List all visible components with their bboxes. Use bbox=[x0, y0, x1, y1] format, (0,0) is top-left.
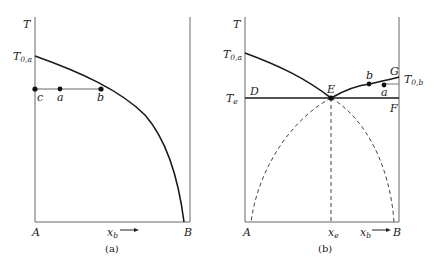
panel-a-t0a-label: T0,a bbox=[13, 50, 32, 64]
panel-a: T T0,a c a b A B xb (a) bbox=[13, 17, 192, 254]
panel-a-liquidus-curve bbox=[35, 56, 184, 222]
panel-a-label-b: b bbox=[97, 91, 104, 104]
panel-b-xb-label: xb bbox=[360, 226, 371, 240]
panel-b-liquidus-right bbox=[331, 77, 399, 98]
panel-a-xb-label: xb bbox=[107, 226, 118, 240]
panel-b-point-E bbox=[328, 95, 333, 100]
panel-b-label-G: G bbox=[390, 65, 399, 78]
panel-b-point-b bbox=[367, 82, 372, 87]
panel-a-label-B: B bbox=[183, 226, 192, 239]
panel-b-caption: (b) bbox=[318, 243, 332, 254]
panel-b-label-E: E bbox=[326, 83, 335, 96]
panel-b-label-b: b bbox=[366, 69, 373, 82]
panel-b-dashed-left bbox=[251, 98, 331, 222]
panel-a-y-axis-label: T bbox=[23, 18, 32, 31]
panel-b-label-a: a bbox=[381, 86, 388, 99]
panel-b-xe-label: xe bbox=[328, 226, 339, 240]
panel-b-te-label: Te bbox=[226, 92, 238, 106]
panel-a-caption: (a) bbox=[105, 243, 119, 254]
panel-a-arrow-right-icon bbox=[120, 228, 139, 232]
panel-b-label-F: F bbox=[389, 102, 398, 115]
panel-a-label-a: a bbox=[57, 91, 64, 104]
panel-b-dashed-right bbox=[331, 98, 394, 222]
panel-b-arrow-right-icon bbox=[372, 228, 391, 232]
panel-b: T T0,a Te D E F G b a T0,b A xe xb B (b) bbox=[223, 17, 423, 254]
panel-b-label-A: A bbox=[242, 226, 251, 239]
panel-b-t0b-label: T0,b bbox=[404, 73, 423, 87]
panel-b-t0a-label: T0,a bbox=[223, 48, 242, 62]
phase-diagrams: T T0,a c a b A B xb (a) T bbox=[0, 0, 435, 264]
panel-b-y-axis-label: T bbox=[233, 18, 242, 31]
panel-a-label-A: A bbox=[31, 226, 40, 239]
panel-a-label-c: c bbox=[37, 91, 43, 104]
panel-b-label-B: B bbox=[392, 226, 401, 239]
panel-b-label-D: D bbox=[249, 85, 259, 98]
